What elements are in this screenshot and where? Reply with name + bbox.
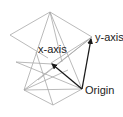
x-axis-arrow <box>52 64 82 89</box>
y-axis-label: y-axis <box>95 31 123 43</box>
wireframe-lines <box>10 12 92 105</box>
y-axis-arrow <box>82 39 91 89</box>
origin-label: Origin <box>85 84 114 96</box>
coordinate-frame-diagram: x-axis y-axis Origin <box>0 0 123 117</box>
x-axis-label: x-axis <box>38 43 67 55</box>
